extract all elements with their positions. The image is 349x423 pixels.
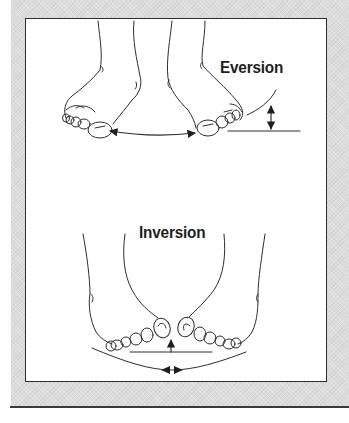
eversion-spread-arrow xyxy=(110,131,195,135)
eversion-illustration xyxy=(63,21,301,138)
inversion-label: Inversion xyxy=(139,223,205,243)
inversion-right-foot xyxy=(175,234,265,349)
eversion-right-foot xyxy=(167,21,242,136)
figure-page: Eversion Inversion xyxy=(0,0,349,423)
eversion-tilt-arc xyxy=(247,90,276,115)
inversion-illustration xyxy=(83,234,265,374)
eversion-left-foot xyxy=(63,21,141,138)
eversion-label: Eversion xyxy=(220,58,283,78)
inversion-left-foot xyxy=(83,234,173,351)
foot-motion-illustration xyxy=(0,0,349,423)
